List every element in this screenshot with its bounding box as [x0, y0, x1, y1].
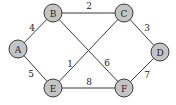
node-label: B	[50, 9, 57, 19]
node-d: D	[151, 43, 169, 61]
edge-weight-e-f: 8	[86, 77, 92, 87]
node-f: F	[115, 79, 133, 97]
node-label: D	[156, 48, 163, 58]
node-e: E	[44, 79, 62, 97]
edge-weight-f-d: 7	[144, 70, 150, 80]
edge-weight-a-e: 5	[28, 69, 34, 79]
edge-weight-e-c: 1	[67, 59, 73, 69]
node-c: C	[115, 4, 133, 22]
edge-weight-b-c: 2	[86, 1, 92, 11]
node-label: F	[121, 84, 127, 94]
node-label: E	[50, 84, 57, 94]
node-b: B	[44, 4, 62, 22]
node-a: A	[9, 40, 27, 58]
edge-weight-c-d: 3	[144, 23, 150, 33]
edge-weight-a-b: 4	[29, 23, 35, 33]
edge-weight-b-f: 6	[104, 58, 110, 68]
node-label: C	[121, 9, 128, 19]
weighted-graph-diagram: 42358761 ABCDEF	[0, 0, 176, 105]
node-label: A	[14, 45, 22, 55]
